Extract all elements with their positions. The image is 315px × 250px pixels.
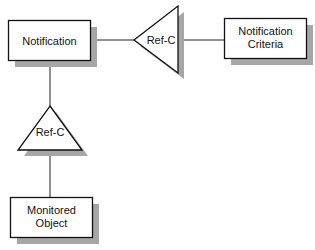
entity-label: Notification [22,35,76,47]
entity-label-line-1: Notification [238,25,292,37]
entity-label-line-2: Criteria [248,38,284,50]
entity-label-line-1: Monitored [27,204,76,216]
entity-notification[interactable]: Notification [9,21,98,68]
relationship-label: Ref-C [147,34,176,46]
relationship-ref-c-vertical[interactable]: Ref-C [18,106,88,156]
entity-label-line-2: Object [36,217,68,229]
relationship-ref-c-horizontal[interactable]: Ref-C [134,6,184,79]
entity-notification-criteria[interactable]: Notification Criteria [225,19,314,66]
diagram-canvas: Notification Notification Criteria Monit… [0,0,315,250]
relationship-label: Ref-C [36,126,65,138]
entity-monitored-object[interactable]: Monitored Object [11,198,100,245]
